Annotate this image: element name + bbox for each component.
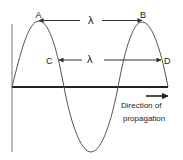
direction-text-line2: propagation (123, 114, 165, 123)
lambda-top: λ (88, 14, 94, 26)
label-d: D (164, 56, 171, 66)
transverse-wave-diagram: A B C D λ λ Direction of propagation (0, 0, 183, 160)
label-a: A (36, 10, 42, 20)
label-b: B (140, 10, 146, 20)
lambda-mid: λ (87, 53, 93, 65)
label-c: C (46, 56, 53, 66)
direction-text-line1: Direction of (121, 101, 162, 110)
